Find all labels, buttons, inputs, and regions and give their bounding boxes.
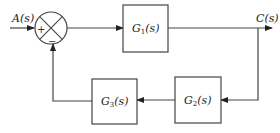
plus-sign: +	[37, 24, 45, 35]
svg-text:G1(s): G1(s)	[132, 22, 160, 36]
block-g1: G1(s)	[123, 5, 168, 52]
svg-text:G3(s): G3(s)	[101, 95, 129, 109]
output-label: C(s)	[256, 12, 279, 25]
summing-junction: + −	[35, 12, 67, 47]
minus-sign: −	[48, 36, 56, 47]
svg-text:G2(s): G2(s)	[184, 94, 212, 108]
feedback-return-line	[53, 44, 92, 101]
input-label: A(s)	[11, 12, 34, 25]
block-g2: G2(s)	[175, 77, 221, 123]
feedback-takeoff-line	[221, 28, 258, 100]
block-g3: G3(s)	[92, 79, 137, 124]
block-diagram: A(s) + − G1(s) C(s) G2(s) G3(s)	[0, 0, 280, 133]
